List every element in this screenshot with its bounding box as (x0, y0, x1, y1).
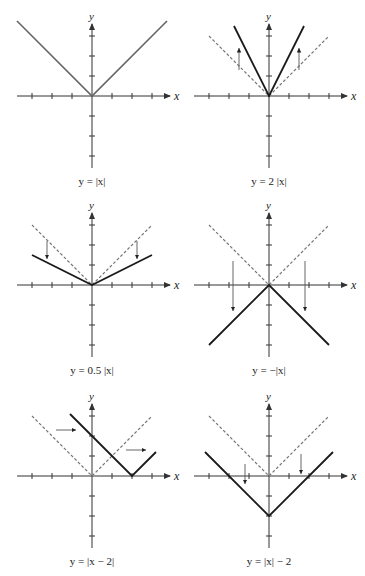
y-axis-label: y (88, 390, 94, 402)
x-axis-label: x (350, 469, 357, 483)
y-axis-label: y (265, 390, 271, 402)
x-axis-label: x (173, 89, 180, 103)
panel-stretch: xy (194, 10, 357, 168)
panel-caption: y = |x| (78, 175, 105, 187)
panel-caption: y = |x| − 2 (247, 555, 291, 567)
figure-canvas: xyxyxyxyxyxy (0, 0, 365, 576)
panel-caption: y = |x − 2| (70, 555, 114, 567)
x-axis-label: x (350, 278, 357, 292)
panel-abs: xy (17, 10, 180, 168)
y-axis-label: y (265, 199, 271, 211)
panel-caption: y = 0.5 |x| (70, 364, 114, 376)
panel-vshift: xy (194, 390, 357, 548)
y-axis-label: y (88, 199, 94, 211)
y-axis-label: y (265, 10, 271, 22)
x-axis-label: x (173, 278, 180, 292)
panel-caption: y = −|x| (252, 364, 285, 376)
x-axis-label: x (173, 469, 180, 483)
panel-hshift: xy (17, 390, 180, 548)
x-axis-label: x (350, 89, 357, 103)
panel-reflect: xy (194, 199, 357, 357)
panel-caption: y = 2 |x| (251, 175, 286, 187)
panel-shrink: xy (17, 199, 180, 357)
y-axis-label: y (88, 10, 94, 22)
